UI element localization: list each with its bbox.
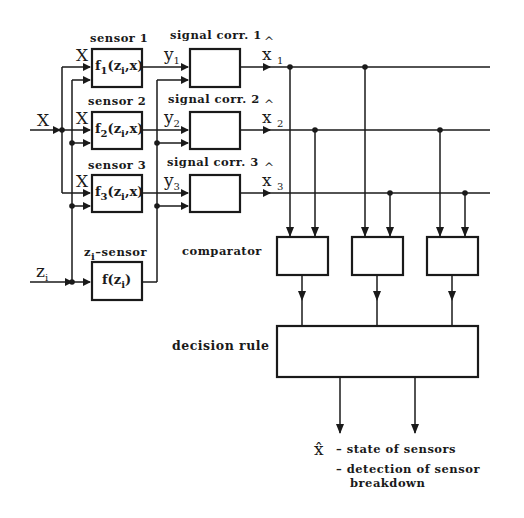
comparator-2-box [352,237,403,275]
signal-corr-2-box [190,112,240,149]
sensor-fusion-diagram [0,0,524,518]
output-breakdown-text: – detection of sensor [336,464,480,476]
decision-rule-label: decision rule [172,340,270,353]
signal-corr-1-title: signal corr. 1 [170,30,262,42]
z-sensor-fn: f(zi) [102,273,131,286]
sensor-3-fn: f3(zi,x) [95,185,143,198]
z-sub: i [45,272,48,283]
signal-corr-2-title: signal corr. 2 [168,94,260,106]
signal-corr-3-box [190,175,240,212]
sensor-2-title: sensor 2 [88,96,146,108]
sensor-1-title: sensor 1 [90,33,148,45]
output-symbol: x̂ [314,441,324,458]
sensor-1-fn: f1(zi,x) [95,59,143,72]
y1-label: y1 [164,46,180,63]
z-label: z [36,261,45,281]
x-hat-2-label: x 2 [262,109,283,126]
signal-corr-1-box [190,49,240,87]
comparator-label: comparator [182,246,262,258]
comparator-3-box [427,237,478,275]
signal-corr-3-title: signal corr. 3 [167,157,259,169]
x-hat-1-label: x 1 [262,46,283,63]
comparator-1-box [277,237,328,275]
z-input-label: zi [36,263,48,280]
output-breakdown-text-2: breakdown [350,478,425,490]
x-input-label: X [37,112,49,129]
sensor-3-x-label: X [76,173,88,190]
y3-label: y3 [164,172,180,189]
y2-label: y2 [164,109,180,126]
sensor-2-x-label: X [76,110,88,127]
sensor-2-fn: f2(zi,x) [95,122,143,135]
decision-rule-box [277,326,478,377]
x-hat-3-label: x 3 [262,172,283,189]
z-sensor-title: zi–sensor [84,247,147,259]
sensor-1-x-label: X [76,47,88,64]
output-state-text: – state of sensors [336,444,456,456]
sensor-3-title: sensor 3 [88,160,146,172]
